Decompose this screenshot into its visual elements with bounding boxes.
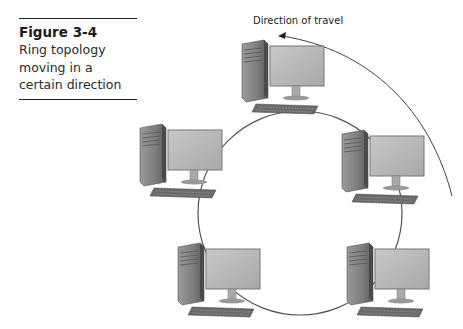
workstation-right xyxy=(342,130,424,204)
workstation-left xyxy=(140,124,222,198)
arrowhead-icon xyxy=(278,32,286,39)
workstation-bottom-right xyxy=(347,243,429,317)
workstation-top xyxy=(242,40,324,114)
ring-diagram xyxy=(0,0,463,329)
workstation-bottom-left xyxy=(178,243,260,317)
